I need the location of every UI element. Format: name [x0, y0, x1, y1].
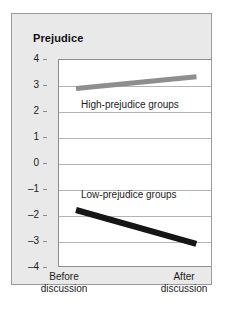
- y-axis-tick-label: –1: [13, 184, 39, 194]
- chart-title: Prejudice: [33, 32, 83, 44]
- y-axis-tick-mark: [43, 189, 47, 190]
- y-axis-tick-label: 0: [13, 158, 39, 168]
- x-axis-tick-label-line1: After: [152, 271, 216, 283]
- series-label-low-prejudice: Low-prejudice groups: [81, 189, 177, 200]
- gridline: [59, 138, 211, 139]
- data-line-low-prejudice: [75, 207, 197, 247]
- plot-area: High-prejudice groupsLow-prejudice group…: [58, 59, 211, 267]
- x-axis-tick-label-line2: discussion: [152, 283, 216, 295]
- y-axis-tick-mark: [43, 163, 47, 164]
- y-axis-tick-label: 4: [13, 54, 39, 64]
- x-axis-tick-label: Beforediscussion: [32, 271, 96, 295]
- y-axis-tick-mark: [43, 215, 47, 216]
- y-axis-tick-mark: [43, 85, 47, 86]
- y-axis-tick-label: –2: [13, 210, 39, 220]
- x-axis-tick-label: Afterdiscussion: [152, 271, 216, 295]
- y-axis-tick-label: 1: [13, 132, 39, 142]
- x-axis-tick-label-line1: Before: [32, 271, 96, 283]
- series-label-high-prejudice: High-prejudice groups: [81, 99, 179, 110]
- y-axis-tick-label: 2: [13, 106, 39, 116]
- y-axis-tick-label: 3: [13, 80, 39, 90]
- gridline: [59, 112, 211, 113]
- data-line-high-prejudice: [76, 74, 196, 91]
- y-axis-tick-mark: [43, 59, 47, 60]
- y-axis-tick-mark: [43, 111, 47, 112]
- chart-figure: Prejudice High-prejudice groupsLow-preju…: [0, 0, 226, 309]
- y-axis-tick-mark: [43, 241, 47, 242]
- gridline: [59, 164, 211, 165]
- y-axis-tick-mark: [43, 267, 47, 268]
- y-axis-tick-mark: [43, 137, 47, 138]
- y-axis-tick-label: –3: [13, 236, 39, 246]
- gridline: [59, 216, 211, 217]
- x-axis-tick-label-line2: discussion: [32, 283, 96, 295]
- chart-card: Prejudice High-prejudice groupsLow-preju…: [11, 13, 212, 285]
